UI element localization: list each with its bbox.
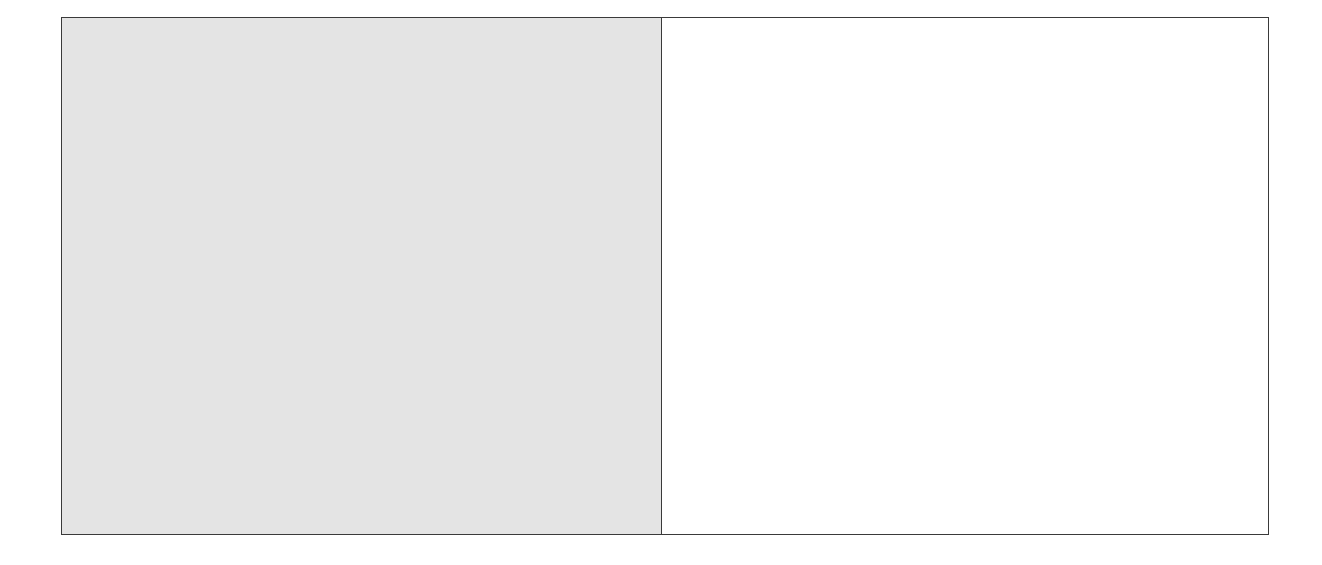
left-shaded-panel: [62, 18, 662, 534]
right-blank-panel: [662, 18, 1268, 534]
diagram-frame: [61, 17, 1269, 535]
